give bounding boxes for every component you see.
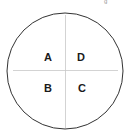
quadrant-label-d: D — [77, 51, 85, 63]
cropped-text-fragment: g — [104, 0, 107, 4]
quadrant-label-c: C — [78, 82, 86, 94]
quadrant-label-a: A — [44, 51, 52, 63]
outer-circle — [7, 13, 123, 129]
quadrant-label-b: B — [44, 82, 52, 94]
quadrant-diagram: g A D B C — [0, 0, 126, 135]
